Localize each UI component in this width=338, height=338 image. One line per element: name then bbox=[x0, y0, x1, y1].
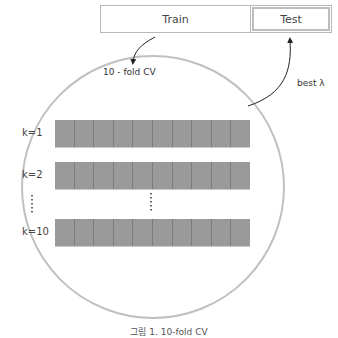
fold-row-1 bbox=[55, 120, 250, 148]
fold-cell bbox=[55, 162, 75, 189]
fold-cell bbox=[75, 219, 95, 246]
fold-cell bbox=[133, 120, 153, 147]
fold-cell bbox=[133, 219, 153, 246]
fold-cell bbox=[212, 219, 232, 246]
fold-cell bbox=[231, 162, 250, 189]
fold-cell bbox=[173, 219, 193, 246]
fold-cell bbox=[192, 219, 212, 246]
fold-cell bbox=[114, 219, 134, 246]
cv-label: 10 - fold CV bbox=[103, 67, 156, 77]
cv-arrow-icon bbox=[133, 37, 155, 62]
fold-cell bbox=[212, 120, 232, 147]
fold-cell bbox=[94, 219, 114, 246]
fold-cell bbox=[153, 219, 173, 246]
fold-cell bbox=[192, 162, 212, 189]
fold-row-10 bbox=[55, 219, 250, 247]
fold-cell bbox=[55, 219, 75, 246]
fold-cell bbox=[94, 162, 114, 189]
fold-label-10: k=10 bbox=[22, 226, 49, 237]
fold-cell bbox=[153, 120, 173, 147]
best-lambda-arrow-icon bbox=[248, 40, 290, 106]
fold-cell bbox=[94, 120, 114, 147]
fold-label-2: k=2 bbox=[22, 169, 43, 180]
best-lambda-label: best λ bbox=[297, 78, 325, 88]
fold-label-1: k=1 bbox=[22, 127, 43, 138]
fold-cell bbox=[75, 162, 95, 189]
fold-cell bbox=[55, 120, 75, 147]
fold-cell bbox=[114, 120, 134, 147]
fold-cell bbox=[173, 162, 193, 189]
fold-cell bbox=[231, 219, 250, 246]
fold-cell bbox=[192, 120, 212, 147]
fold-cell bbox=[153, 162, 173, 189]
figure-caption: 그림 1. 10-fold CV bbox=[0, 325, 338, 338]
fold-cell bbox=[173, 120, 193, 147]
fold-cell bbox=[133, 162, 153, 189]
fold-cell bbox=[231, 120, 250, 147]
fold-cell bbox=[212, 162, 232, 189]
fold-cell bbox=[114, 162, 134, 189]
fold-row-2 bbox=[55, 162, 250, 190]
fold-cell bbox=[75, 120, 95, 147]
